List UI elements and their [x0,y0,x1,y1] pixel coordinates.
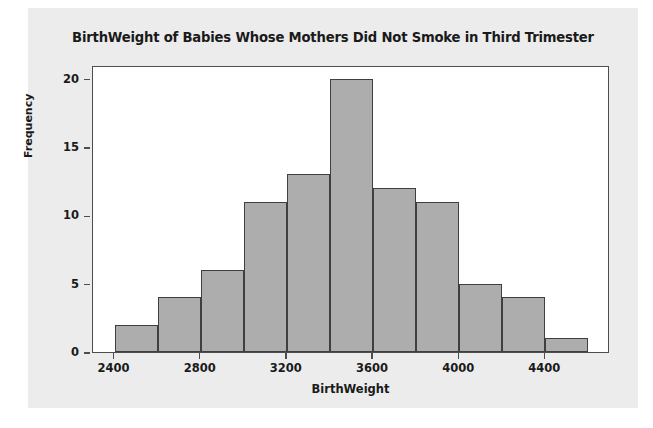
y-tick-mark [84,216,90,217]
chart-figure: BirthWeight of Babies Whose Mothers Did … [28,8,638,408]
y-tick-label: 15 [63,140,79,154]
x-tick-label: 3600 [342,361,402,375]
x-tick-mark [199,353,200,359]
histogram-bar [416,202,459,352]
histogram-bar [287,174,330,352]
x-tick-mark [458,353,459,359]
y-tick-label: 20 [63,72,79,86]
plot-area [92,66,609,353]
histogram-bar [502,297,545,352]
y-tick-mark [84,284,90,285]
chart-title: BirthWeight of Babies Whose Mothers Did … [28,30,638,45]
histogram-bar [373,188,416,352]
histogram-bar [330,79,373,352]
x-tick-mark [113,353,114,359]
x-tick-label: 2800 [170,361,230,375]
x-tick-label: 4400 [514,361,574,375]
x-tick-label: 4000 [428,361,488,375]
x-tick-label: 3200 [256,361,316,375]
histogram-bar [545,338,588,352]
bars-container [93,67,608,352]
x-tick-mark [371,353,372,359]
y-tick-label: 10 [63,208,79,222]
histogram-bar [158,297,201,352]
histogram-bar [459,284,502,352]
x-axis-title: BirthWeight [92,382,609,396]
histogram-bar [115,325,158,352]
x-tick-mark [285,353,286,359]
y-tick-label: 0 [71,345,79,359]
x-tick-label: 2400 [84,361,144,375]
x-tick-mark [544,353,545,359]
y-tick-mark [84,147,90,148]
y-tick-mark [84,352,90,353]
histogram-bar [201,270,244,352]
y-axis-title: Frequency [22,94,35,158]
y-tick-label: 5 [71,277,79,291]
histogram-bar [244,202,287,352]
y-tick-mark [84,79,90,80]
